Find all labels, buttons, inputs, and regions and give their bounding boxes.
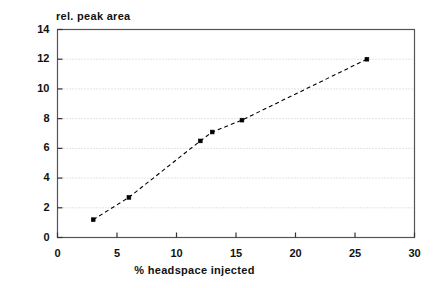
y-tick-label-4: 4 [10, 172, 50, 183]
data-point-4 [240, 118, 244, 122]
plot-frame [58, 30, 415, 238]
series-markers-rel-peak-area [91, 57, 369, 221]
y-tick-label-2: 2 [10, 202, 50, 213]
y-tick-label-10: 10 [10, 83, 50, 94]
x-axis-title-text: % headspace injected [134, 264, 254, 276]
data-point-3 [210, 130, 214, 134]
x-tick-label-20: 20 [276, 248, 316, 259]
axes-frame [58, 30, 415, 238]
y-tick-label-6: 6 [10, 142, 50, 153]
data-point-5 [365, 57, 369, 61]
x-tick-label-30: 30 [395, 248, 435, 259]
x-tick-label-25: 25 [335, 248, 375, 259]
gridlines-group [58, 59, 415, 208]
y-tick-label-0: 0 [10, 232, 50, 243]
x-tick-label-0: 0 [38, 248, 78, 259]
data-point-1 [127, 195, 131, 199]
x-tick-label-10: 10 [157, 248, 197, 259]
data-point-2 [198, 139, 202, 143]
x-tick-label-15: 15 [216, 248, 256, 259]
y-tick-label-8: 8 [10, 113, 50, 124]
data-point-0 [91, 218, 95, 222]
x-tick-label-5: 5 [97, 248, 137, 259]
tick-marks-group [58, 30, 415, 238]
x-axis-title: % headspace injected [0, 264, 435, 276]
chart-figure: rel. peak area 02468101214 051015202530 … [0, 0, 435, 288]
y-tick-label-12: 12 [10, 53, 50, 64]
series-0-dashed-line [93, 59, 367, 219]
y-tick-label-14: 14 [10, 24, 50, 35]
plot-canvas [0, 0, 435, 288]
series-line-rel-peak-area [93, 59, 367, 219]
